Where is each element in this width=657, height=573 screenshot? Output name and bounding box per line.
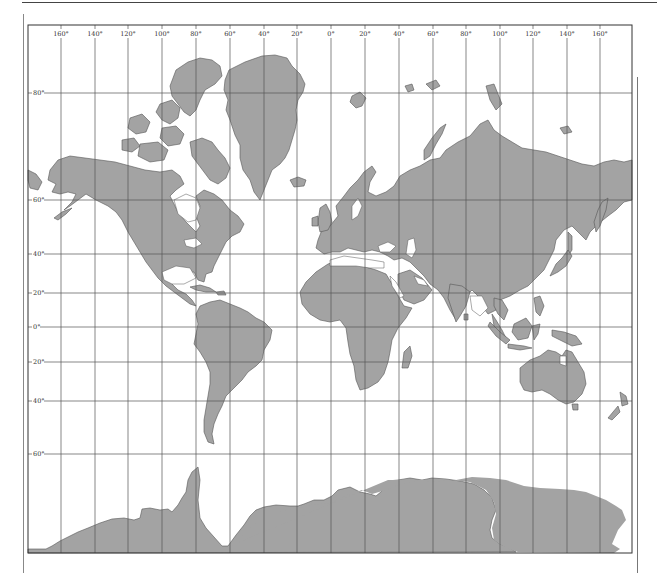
lon-label: 0° — [327, 30, 334, 38]
chukotka-west — [28, 170, 42, 190]
arctic-island-2 — [128, 114, 150, 134]
world-map: 160° 140° 120° 100° 80° 60° 40° 20° 0° 2… — [0, 0, 657, 573]
lon-label: 60° — [224, 30, 236, 38]
java — [508, 344, 532, 350]
lon-label: 140° — [87, 30, 103, 38]
franz-josef-land — [405, 84, 414, 92]
arctic-island-3 — [160, 126, 184, 146]
svalbard — [350, 92, 366, 108]
australia — [520, 350, 586, 404]
lon-label: 120° — [120, 30, 136, 38]
lat-label: 60° — [33, 450, 45, 458]
lon-label: 60° — [427, 30, 439, 38]
new-zealand-north — [620, 392, 628, 406]
new-siberian-islands — [560, 126, 572, 134]
lat-label: 0° — [33, 323, 40, 331]
lat-label: 80° — [33, 89, 45, 97]
africa — [300, 260, 412, 390]
new-zealand-south — [608, 406, 620, 420]
land-masses — [28, 55, 632, 553]
borneo — [512, 318, 532, 340]
lon-label: 100° — [492, 30, 508, 38]
iceland — [290, 177, 306, 187]
indochina — [494, 298, 508, 320]
lon-label: 20° — [291, 30, 303, 38]
lon-label: 20° — [359, 30, 371, 38]
tasmania — [572, 404, 578, 410]
lon-label: 80° — [460, 30, 472, 38]
lon-label: 40° — [258, 30, 270, 38]
lat-label: 20° — [33, 289, 45, 297]
lon-label: 160° — [53, 30, 69, 38]
lon-label: 100° — [154, 30, 170, 38]
aleutian-islands — [54, 208, 72, 220]
victoria-island — [138, 142, 168, 162]
longitude-labels: 160° 140° 120° 100° 80° 60° 40° 20° 0° 2… — [52, 29, 609, 38]
lon-label: 160° — [592, 30, 608, 38]
lat-label: 40° — [33, 250, 45, 258]
arctic-island-1 — [156, 100, 180, 124]
gulf-of-carpentaria — [560, 356, 566, 366]
lon-label: 120° — [525, 30, 541, 38]
ireland — [312, 216, 318, 226]
lat-label: 60° — [33, 196, 45, 204]
madagascar — [402, 346, 412, 368]
cuba — [190, 285, 216, 292]
lat-label: 40° — [33, 397, 45, 405]
lon-label: 40° — [393, 30, 405, 38]
lon-label: 140° — [559, 30, 575, 38]
latitude-labels: 80° 60° 40° 20° 0° 20° 40° 60° — [32, 89, 45, 458]
lon-label: 80° — [190, 30, 202, 38]
arctic-island-4 — [122, 138, 140, 152]
severnaya-zemlya — [486, 84, 502, 110]
south-america — [194, 300, 272, 444]
philippines — [534, 296, 544, 316]
greenland — [224, 55, 305, 200]
mediterranean-sea — [330, 256, 384, 268]
lat-label: 20° — [33, 358, 45, 366]
